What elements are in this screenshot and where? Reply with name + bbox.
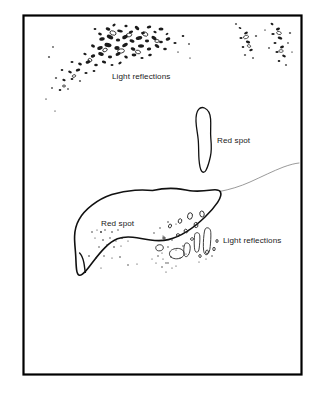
label-light-reflections-right: Light reflections bbox=[223, 236, 281, 245]
label-red-spot-upper: Red spot bbox=[217, 136, 251, 145]
label-light-reflections-top: Light reflections bbox=[112, 72, 170, 81]
figure-root: Light reflections Red spot Red spot Ligh… bbox=[0, 0, 320, 399]
label-red-spot-lower: Red spot bbox=[101, 219, 135, 228]
figure-canvas: Light reflections Red spot Red spot Ligh… bbox=[0, 0, 320, 399]
page-background bbox=[0, 0, 320, 399]
